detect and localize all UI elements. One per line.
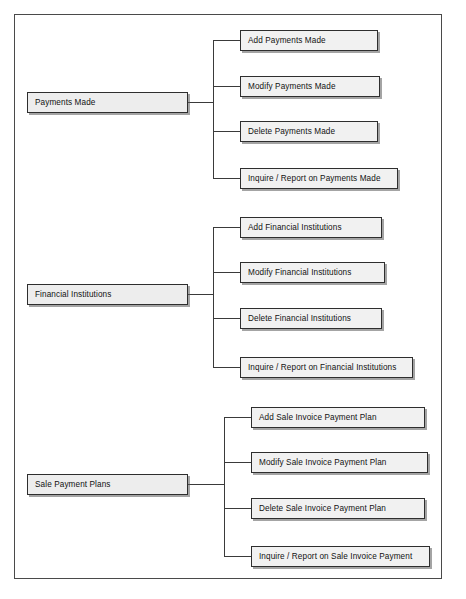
node-label: Sale Payment Plans bbox=[28, 480, 116, 489]
node-label: Delete Sale Invoice Payment Plan bbox=[252, 504, 391, 513]
node-label: Delete Payments Made bbox=[241, 127, 340, 136]
node-label: Add Payments Made bbox=[241, 36, 331, 45]
child-node-add-sale-invoice-payment-plan[interactable]: Add Sale Invoice Payment Plan bbox=[251, 407, 425, 428]
child-node-add-payments-made[interactable]: Add Payments Made bbox=[240, 30, 378, 51]
node-label: Add Sale Invoice Payment Plan bbox=[252, 413, 382, 422]
node-label: Modify Payments Made bbox=[241, 82, 341, 91]
parent-node-sale-payment-plans[interactable]: Sale Payment Plans bbox=[27, 474, 188, 495]
parent-node-financial-institutions[interactable]: Financial Institutions bbox=[27, 284, 188, 305]
child-node-inquire-report-on-payments-made[interactable]: Inquire / Report on Payments Made bbox=[240, 168, 398, 189]
child-node-inquire-report-on-financial-institutions[interactable]: Inquire / Report on Financial Institutio… bbox=[240, 357, 413, 378]
node-label: Inquire / Report on Financial Institutio… bbox=[241, 363, 401, 372]
child-node-add-financial-institutions[interactable]: Add Financial Institutions bbox=[240, 217, 382, 238]
node-label: Financial Institutions bbox=[28, 290, 116, 299]
child-node-delete-sale-invoice-payment-plan[interactable]: Delete Sale Invoice Payment Plan bbox=[251, 498, 425, 519]
node-label: Modify Financial Institutions bbox=[241, 268, 356, 277]
child-node-inquire-report-on-sale-invoice-payment[interactable]: Inquire / Report on Sale Invoice Payment bbox=[251, 546, 430, 567]
child-node-modify-financial-institutions[interactable]: Modify Financial Institutions bbox=[240, 262, 385, 283]
node-label: Delete Financial Institutions bbox=[241, 314, 356, 323]
node-label: Inquire / Report on Sale Invoice Payment bbox=[252, 552, 417, 561]
child-node-modify-payments-made[interactable]: Modify Payments Made bbox=[240, 76, 380, 97]
node-label: Inquire / Report on Payments Made bbox=[241, 174, 386, 183]
parent-node-payments-made[interactable]: Payments Made bbox=[27, 92, 188, 113]
child-node-modify-sale-invoice-payment-plan[interactable]: Modify Sale Invoice Payment Plan bbox=[251, 452, 428, 473]
child-node-delete-payments-made[interactable]: Delete Payments Made bbox=[240, 121, 378, 142]
diagram-canvas: Payments MadeAdd Payments MadeModify Pay… bbox=[0, 0, 466, 599]
node-label: Payments Made bbox=[28, 98, 100, 107]
node-label: Add Financial Institutions bbox=[241, 223, 347, 232]
child-node-delete-financial-institutions[interactable]: Delete Financial Institutions bbox=[240, 308, 382, 329]
node-label: Modify Sale Invoice Payment Plan bbox=[252, 458, 391, 467]
